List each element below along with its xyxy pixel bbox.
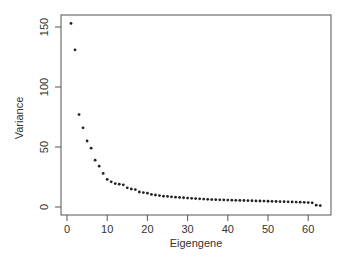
data-point [98, 165, 101, 168]
data-point [190, 197, 193, 200]
data-point [74, 48, 77, 51]
data-point [82, 126, 85, 129]
data-point [267, 200, 270, 203]
data-point [122, 183, 125, 186]
y-axis-title: Variance [13, 97, 25, 140]
data-point [291, 201, 294, 204]
data-point [315, 204, 318, 207]
plot-frame [61, 15, 331, 215]
data-point [166, 195, 169, 198]
data-point [150, 193, 153, 196]
data-point [202, 198, 205, 201]
x-tick-label: 30 [181, 223, 193, 235]
data-point [174, 196, 177, 199]
data-point [230, 199, 233, 202]
x-tick-label: 20 [141, 223, 153, 235]
y-tick-label: 100 [38, 78, 50, 96]
data-point [279, 200, 282, 203]
data-point [222, 199, 225, 202]
data-point [186, 197, 189, 200]
data-point [130, 188, 133, 191]
data-point [263, 200, 266, 203]
data-point [247, 199, 250, 202]
x-axis: 0102030405060 [64, 215, 314, 235]
x-tick-label: 50 [262, 223, 274, 235]
data-point [214, 198, 217, 201]
y-tick-label: 150 [38, 18, 50, 36]
data-point [154, 194, 157, 197]
data-point [194, 197, 197, 200]
data-point [182, 196, 185, 199]
data-point [114, 182, 117, 185]
data-point [307, 201, 310, 204]
data-point [106, 178, 109, 181]
data-point [251, 199, 254, 202]
data-point [78, 113, 81, 116]
data-point [158, 194, 161, 197]
data-point [299, 201, 302, 204]
data-point [287, 200, 290, 203]
data-point [138, 191, 141, 194]
data-point [142, 191, 145, 194]
x-axis-title: Eigengene [170, 237, 223, 249]
data-point [295, 201, 298, 204]
data-point [70, 22, 73, 25]
data-point [94, 159, 97, 162]
data-point [242, 199, 245, 202]
data-point [218, 198, 221, 201]
y-tick-label: 50 [38, 141, 50, 153]
data-point [319, 204, 322, 207]
data-point [170, 195, 173, 198]
data-point [90, 147, 93, 150]
data-points [70, 22, 322, 207]
scatter-chart: 050100150 0102030405060 Eigengene Varian… [0, 0, 348, 265]
data-point [303, 201, 306, 204]
x-tick-label: 0 [64, 223, 70, 235]
data-point [126, 186, 129, 189]
data-point [206, 198, 209, 201]
data-point [178, 196, 181, 199]
data-point [226, 199, 229, 202]
data-point [198, 197, 201, 200]
y-tick-label: 0 [38, 204, 50, 210]
x-tick-label: 10 [101, 223, 113, 235]
data-point [283, 200, 286, 203]
data-point [255, 199, 258, 202]
data-point [275, 200, 278, 203]
x-tick-label: 40 [222, 223, 234, 235]
data-point [86, 140, 89, 143]
data-point [102, 172, 105, 175]
data-point [134, 188, 137, 191]
data-point [110, 180, 113, 183]
data-point [146, 192, 149, 195]
data-point [311, 201, 314, 204]
y-axis: 050100150 [38, 18, 61, 210]
x-tick-label: 60 [302, 223, 314, 235]
data-point [259, 200, 262, 203]
data-point [162, 195, 165, 198]
data-point [271, 200, 274, 203]
data-point [238, 199, 241, 202]
data-point [210, 198, 213, 201]
data-point [234, 199, 237, 202]
data-point [118, 183, 121, 186]
